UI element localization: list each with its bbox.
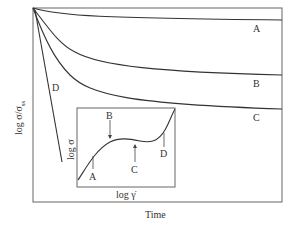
diagram-canvas: A B C D log σ/σss Time A B C D log γ̇ lo… [0,0,295,227]
inset-y-label: log σ [65,139,76,160]
x-axis-label: Time [145,209,166,220]
inset-label-a: A [89,171,97,182]
y-axis-label: log σ/σss [13,100,27,135]
inset-label-d: D [160,148,167,159]
inset-label-b: B [106,110,113,121]
inset-x-label: log γ̇ [116,189,137,200]
curve-d-label: D [52,82,59,93]
curve-c-label: C [253,112,260,123]
curve-a [33,8,282,20]
curve-a-label: A [253,23,261,34]
curve-b-label: B [253,78,260,89]
curve-c [33,8,282,109]
inset-label-c: C [131,164,138,175]
